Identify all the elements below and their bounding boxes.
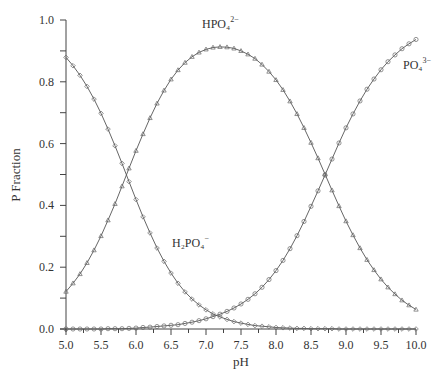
x-tick-label: 7.5	[234, 338, 249, 352]
x-tick-label: 6.5	[164, 338, 179, 352]
species-fraction-chart: 0.00.20.40.60.81.05.05.56.06.57.07.58.08…	[0, 0, 442, 384]
label-h2po4: H₂PO₄−	[172, 234, 209, 250]
x-tick-label: 8.5	[304, 338, 319, 352]
x-tick-label: 6.0	[129, 338, 144, 352]
x-tick-label: 10.0	[406, 338, 427, 352]
y-tick-label: 1.0	[39, 13, 54, 27]
y-tick-label: 0.0	[39, 322, 54, 336]
axes: 0.00.20.40.60.81.05.05.56.06.57.07.58.08…	[39, 13, 427, 352]
y-axis-title: P Fraction	[8, 148, 23, 202]
curve-diamond	[66, 57, 416, 329]
curves	[66, 40, 416, 330]
x-tick-label: 9.5	[374, 338, 389, 352]
y-tick-label: 0.2	[39, 260, 54, 274]
x-tick-label: 9.0	[339, 338, 354, 352]
label-po4: PO₄3−	[403, 56, 432, 72]
markers	[64, 37, 419, 331]
x-tick-label: 7.0	[199, 338, 214, 352]
x-axis-title: pH	[233, 354, 249, 369]
y-tick-label: 0.4	[39, 198, 54, 212]
circle-marker	[414, 37, 418, 41]
x-tick-label: 8.0	[269, 338, 284, 352]
x-tick-label: 5.0	[59, 338, 74, 352]
label-hpo4: HPO₄2−	[202, 15, 239, 31]
x-tick-label: 5.5	[94, 338, 109, 352]
curve-triangle	[66, 47, 416, 310]
curve-circle	[66, 40, 416, 330]
y-tick-label: 0.6	[39, 137, 54, 151]
y-tick-label: 0.8	[39, 75, 54, 89]
